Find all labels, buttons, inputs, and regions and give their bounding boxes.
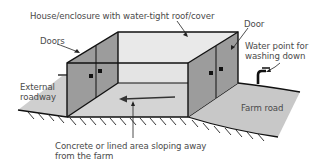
door-handle-icon (219, 67, 223, 71)
back-wall (118, 63, 188, 83)
label-concrete-1: Concrete or lined area sloping away (55, 141, 206, 151)
label-concrete-2: from the farm (55, 151, 113, 161)
label-farm-road: Farm road (241, 103, 283, 113)
door-handle-icon (89, 74, 93, 78)
door-handle-icon (98, 69, 102, 73)
label-house-enclosure: House/enclosure with water-tight roof/co… (30, 11, 214, 21)
door-handle-icon (209, 71, 213, 75)
label-water-point-2: washing down (245, 51, 305, 61)
label-doors-left: Doors (40, 36, 65, 46)
label-external-roadway-1: External (20, 82, 55, 92)
label-door-right: Door (244, 19, 264, 29)
label-water-point-1: Water point for (245, 41, 308, 51)
leader-arrowhead (266, 69, 271, 73)
label-external-roadway-2: roadway (20, 92, 56, 102)
